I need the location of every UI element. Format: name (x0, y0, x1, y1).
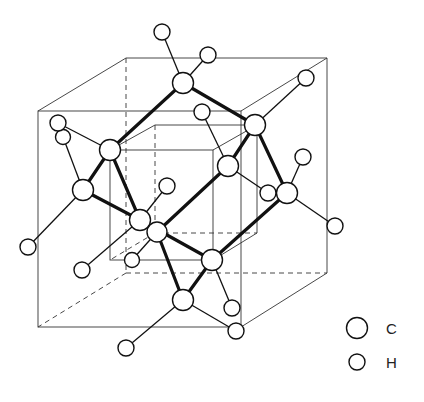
hydrogen-atom (295, 149, 311, 165)
hydrogen-atom (125, 253, 140, 268)
hydrogen-atom (224, 300, 240, 316)
legend: C H (347, 318, 398, 372)
carbon-atom (218, 156, 239, 177)
hydrogen-atom (260, 185, 276, 201)
hydrogen-atom (56, 130, 71, 145)
legend-hydrogen-icon (349, 354, 365, 370)
hydrogen-atom (118, 340, 134, 356)
hydrogen-atom (154, 24, 170, 40)
carbon-atom (173, 73, 194, 94)
hydrogen-atom (50, 115, 66, 131)
adamantane-crystal-diagram: C H (0, 0, 424, 402)
hydrogen-atom (228, 323, 244, 339)
carbon-atom (100, 140, 121, 161)
hydrogen-atom (200, 47, 216, 63)
hydrogen-atom (194, 104, 210, 120)
carbon-atom (73, 180, 94, 201)
hydrogen-atom (298, 70, 314, 86)
legend-hydrogen-label: H (386, 354, 397, 371)
hydrogen-atom (20, 239, 36, 255)
carbon-atom (202, 250, 223, 271)
legend-carbon-label: C (386, 320, 397, 337)
hydrogen-atom (327, 218, 343, 234)
hydrogen-atom (159, 178, 175, 194)
legend-carbon-icon (347, 318, 368, 339)
carbon-atom (277, 183, 298, 204)
carbon-atom (130, 210, 151, 231)
hydrogen-atom (74, 262, 90, 278)
carbon-atom (173, 290, 194, 311)
carbon-atom (245, 115, 266, 136)
